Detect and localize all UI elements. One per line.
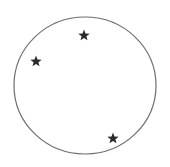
background bbox=[0, 0, 170, 167]
diagram-canvas bbox=[0, 0, 170, 167]
